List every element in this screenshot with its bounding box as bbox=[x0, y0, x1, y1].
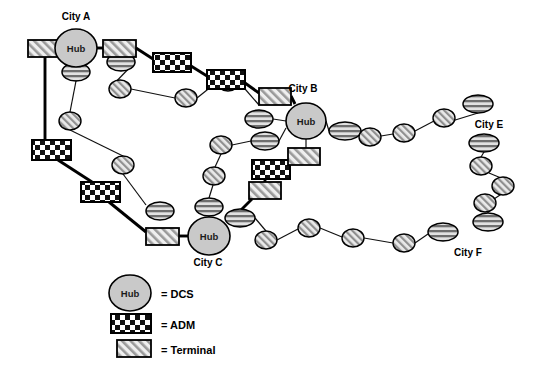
hatched-node[interactable] bbox=[210, 136, 232, 154]
hatched-node[interactable] bbox=[255, 231, 277, 249]
striped-node[interactable] bbox=[463, 95, 493, 113]
legend-label-dcs: = DCS bbox=[161, 288, 194, 300]
terminal-node[interactable] bbox=[103, 40, 136, 57]
striped-node[interactable] bbox=[225, 209, 255, 227]
striped-node[interactable] bbox=[329, 122, 361, 140]
striped-node[interactable] bbox=[251, 132, 279, 150]
hub-city-a[interactable]: Hub bbox=[55, 29, 97, 67]
hatched-node[interactable] bbox=[342, 229, 364, 247]
hatched-node[interactable] bbox=[492, 177, 514, 195]
striped-node[interactable] bbox=[245, 110, 273, 128]
hatched-node[interactable] bbox=[112, 156, 134, 174]
legend-terminal-icon bbox=[117, 340, 151, 357]
hub-city-b[interactable]: Hub bbox=[286, 103, 326, 139]
hatched-node[interactable] bbox=[393, 124, 415, 142]
striped-node[interactable] bbox=[428, 223, 458, 241]
legend-label-terminal: = Terminal bbox=[161, 344, 216, 356]
adm-node[interactable] bbox=[153, 53, 191, 72]
hatched-node[interactable] bbox=[470, 157, 492, 175]
network-diagram-canvas: Hub Hub Hub City A City B City C City E … bbox=[0, 0, 543, 365]
terminal-node[interactable] bbox=[146, 228, 179, 245]
terminal-node[interactable] bbox=[259, 88, 291, 105]
hub-label: Hub bbox=[67, 43, 86, 54]
terminal-node[interactable] bbox=[249, 182, 281, 199]
city-label-b: City B bbox=[289, 83, 318, 94]
legend-hub-label: Hub bbox=[121, 288, 140, 299]
adm-node[interactable] bbox=[252, 160, 290, 179]
city-label-a: City A bbox=[62, 11, 91, 22]
hub-label: Hub bbox=[200, 231, 219, 242]
hatched-node[interactable] bbox=[109, 80, 131, 98]
striped-node[interactable] bbox=[195, 198, 223, 216]
hatched-node[interactable] bbox=[474, 194, 496, 212]
adm-node[interactable] bbox=[32, 140, 71, 160]
striped-node[interactable] bbox=[146, 202, 174, 220]
adm-node[interactable] bbox=[81, 182, 120, 202]
network-topology-svg: Hub Hub Hub City A City B City C City E … bbox=[0, 0, 543, 365]
hub-label: Hub bbox=[297, 116, 316, 127]
city-label-f: City F bbox=[454, 247, 482, 258]
hatched-node[interactable] bbox=[298, 219, 320, 237]
hatched-node[interactable] bbox=[433, 109, 455, 127]
striped-node[interactable] bbox=[469, 134, 499, 152]
legend-label-adm: = ADM bbox=[161, 319, 195, 331]
hub-city-c[interactable]: Hub bbox=[188, 217, 230, 255]
legend-adm-icon bbox=[111, 314, 151, 333]
hatched-node[interactable] bbox=[393, 234, 415, 252]
striped-node[interactable] bbox=[473, 213, 503, 231]
city-label-e: City E bbox=[475, 119, 504, 130]
terminal-node[interactable] bbox=[288, 148, 320, 165]
hatched-node[interactable] bbox=[59, 112, 81, 130]
hatched-node[interactable] bbox=[359, 128, 381, 146]
hatched-node[interactable] bbox=[175, 89, 197, 107]
adm-node[interactable] bbox=[207, 70, 245, 89]
hatched-node[interactable] bbox=[203, 167, 225, 185]
city-label-c: City C bbox=[194, 257, 223, 268]
